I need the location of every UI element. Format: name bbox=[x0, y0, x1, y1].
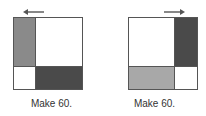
cell-bottom-right bbox=[36, 67, 82, 89]
caption: Make 60. bbox=[0, 98, 103, 109]
figure-right: Make 60. bbox=[103, 0, 206, 116]
area-model-square bbox=[128, 17, 198, 90]
cell-bottom-right bbox=[175, 67, 197, 89]
cell-bottom-left bbox=[129, 67, 175, 89]
area-model-square bbox=[13, 17, 83, 90]
arrow-left-icon bbox=[28, 11, 44, 13]
cell-top-right bbox=[36, 18, 82, 67]
cell-bottom-left bbox=[14, 67, 36, 89]
cell-top-right bbox=[175, 18, 197, 67]
arrow-right-icon bbox=[164, 11, 180, 13]
cell-top-left bbox=[129, 18, 175, 67]
figure-left: Make 60. bbox=[0, 0, 103, 116]
caption: Make 60. bbox=[103, 98, 206, 109]
cell-top-left bbox=[14, 18, 36, 67]
